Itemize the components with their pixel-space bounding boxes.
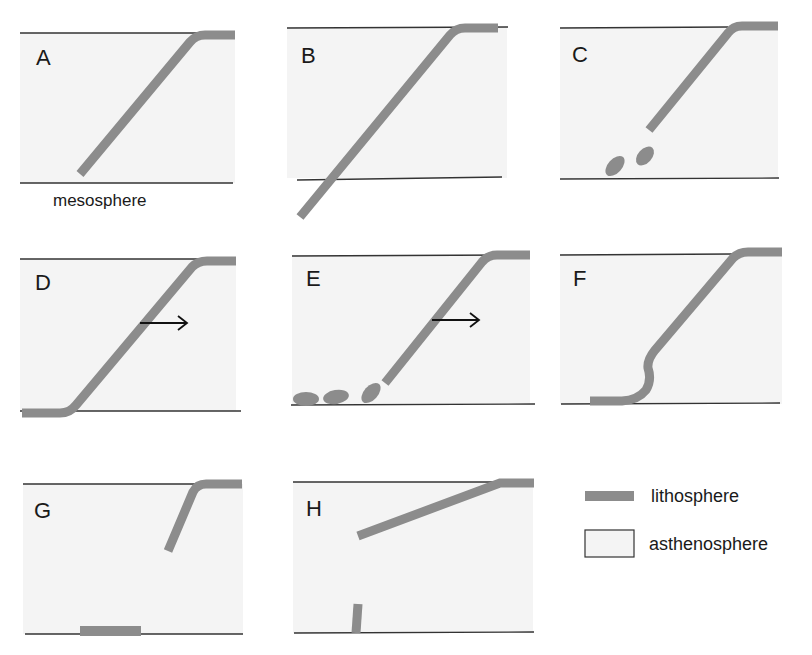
panel-label: A — [36, 45, 51, 70]
lithosphere-swatch — [585, 491, 634, 501]
panel-e: E — [291, 255, 535, 407]
panel-label: D — [35, 270, 51, 295]
panel-b: B — [287, 27, 508, 217]
detached-slab-fragment — [80, 626, 141, 636]
asthenosphere-region — [20, 33, 235, 183]
legend-label-lithosphere: lithosphere — [651, 486, 739, 506]
asthenosphere-region — [23, 484, 243, 634]
mesosphere-label: mesosphere — [53, 191, 147, 210]
panel-h: H — [293, 482, 534, 633]
panel-label: C — [572, 42, 588, 67]
panel-g: G — [23, 484, 243, 636]
legend-label-asthenosphere: asthenosphere — [649, 534, 768, 554]
panel-label: F — [573, 266, 586, 291]
asthenosphere-swatch — [585, 530, 634, 557]
detached-slab-fragment — [293, 392, 319, 406]
upper-boundary-line — [292, 255, 510, 256]
detached-slab-fragment — [356, 604, 358, 633]
lower-boundary-line — [560, 178, 779, 179]
panel-label: B — [301, 43, 316, 68]
panel-a: A mesosphere — [20, 33, 235, 210]
panel-label: G — [34, 498, 51, 523]
asthenosphere-region — [292, 256, 530, 405]
panel-label: H — [306, 496, 322, 521]
upper-boundary-line — [560, 254, 732, 255]
panel-f: F — [560, 252, 782, 404]
subduction-diagram: A mesosphere B C D — [0, 0, 812, 655]
panel-label: E — [306, 266, 321, 291]
panel-d: D — [20, 259, 241, 413]
upper-boundary-line — [560, 27, 728, 28]
asthenosphere-region — [293, 482, 533, 633]
panel-c: C — [560, 26, 779, 180]
legend: lithosphere asthenosphere — [585, 486, 768, 557]
asthenosphere-region — [20, 259, 236, 411]
